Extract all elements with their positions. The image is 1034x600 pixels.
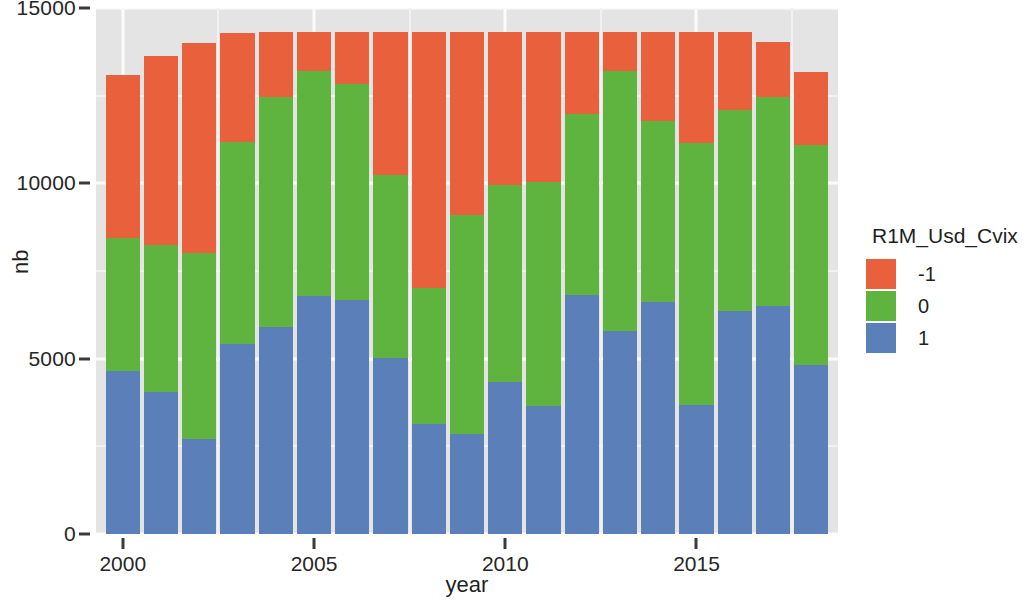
bar-stack — [144, 8, 178, 534]
x-axis-title: year — [96, 572, 838, 598]
bar-segment — [756, 306, 790, 534]
gridline-minor-vertical — [600, 8, 602, 534]
legend-color-swatch — [866, 259, 896, 289]
bar-segment — [182, 43, 216, 253]
bar-segment — [565, 32, 599, 114]
x-tick-mark — [504, 538, 507, 549]
bar-stack — [794, 8, 828, 534]
y-axis-title: nb — [8, 250, 34, 274]
bar-segment — [373, 175, 407, 357]
bar-segment — [718, 32, 752, 109]
bar-stack — [220, 8, 254, 534]
y-tick-label: 5000 — [28, 347, 76, 371]
bar-segment — [144, 392, 178, 534]
y-axis: 050001000015000 — [0, 0, 96, 600]
bar-stack — [603, 8, 637, 534]
bar-segment — [144, 245, 178, 392]
bar-segment — [182, 253, 216, 440]
bar-segment — [450, 32, 484, 214]
bar-segment — [679, 32, 713, 143]
bar-segment — [794, 145, 828, 365]
legend-item: 1 — [866, 322, 1034, 354]
bar-segment — [220, 33, 254, 142]
bar-segment — [756, 42, 790, 97]
bar-segment — [412, 32, 446, 288]
legend: R1M_Usd_Cvix -101 — [866, 224, 1034, 354]
x-tick-mark — [313, 538, 316, 549]
bar-segment — [603, 71, 637, 330]
bar-segment — [297, 71, 331, 296]
bar-stack — [488, 8, 522, 534]
legend-item-label: -1 — [918, 263, 936, 286]
bar-stack — [412, 8, 446, 534]
bar-segment — [335, 300, 369, 534]
bar-segment — [106, 371, 140, 534]
y-tick-label: 15000 — [17, 0, 76, 20]
bar-stack — [259, 8, 293, 534]
bar-stack — [526, 8, 560, 534]
bar-segment — [794, 72, 828, 145]
bar-segment — [488, 382, 522, 534]
bar-segment — [603, 331, 637, 534]
bar-segment — [106, 75, 140, 237]
legend-item-label: 1 — [918, 327, 929, 350]
bar-segment — [488, 32, 522, 185]
bar-segment — [335, 32, 369, 84]
bar-segment — [335, 84, 369, 299]
plot-panel — [96, 8, 838, 534]
bar-segment — [603, 32, 637, 71]
bar-segment — [412, 288, 446, 424]
bar-segment — [144, 56, 178, 244]
bar-segment — [756, 97, 790, 306]
bar-stack — [718, 8, 752, 534]
bar-segment — [259, 32, 293, 97]
bar-segment — [794, 365, 828, 534]
y-tick-label: 10000 — [17, 171, 76, 195]
bar-segment — [718, 311, 752, 534]
x-tick-mark — [695, 538, 698, 549]
bar-segment — [679, 143, 713, 405]
bar-segment — [488, 185, 522, 381]
y-tick-mark — [79, 357, 90, 360]
bar-segment — [106, 238, 140, 371]
gridline-minor-vertical — [409, 8, 411, 534]
bar-stack — [297, 8, 331, 534]
bar-stack — [182, 8, 216, 534]
bar-stack — [756, 8, 790, 534]
bar-segment — [259, 327, 293, 534]
legend-title: R1M_Usd_Cvix — [872, 224, 1034, 248]
bar-segment — [718, 110, 752, 312]
bar-stack — [641, 8, 675, 534]
bar-segment — [182, 439, 216, 534]
bar-segment — [373, 358, 407, 534]
bar-segment — [526, 406, 560, 534]
gridline-minor-vertical — [791, 8, 793, 534]
legend-item: 0 — [866, 290, 1034, 322]
bar-segment — [373, 32, 407, 175]
y-tick-mark — [79, 7, 90, 10]
bar-segment — [412, 424, 446, 534]
bar-segment — [220, 344, 254, 534]
bar-segment — [679, 405, 713, 534]
bar-segment — [526, 182, 560, 406]
legend-item-label: 0 — [918, 295, 929, 318]
x-tick-mark — [121, 538, 124, 549]
bar-stack — [565, 8, 599, 534]
bar-segment — [641, 302, 675, 534]
y-tick-mark — [79, 182, 90, 185]
bar-segment — [220, 142, 254, 344]
bar-stack — [679, 8, 713, 534]
y-tick-mark — [79, 533, 90, 536]
bar-segment — [450, 434, 484, 534]
bar-segment — [565, 295, 599, 534]
stacked-bar-chart: 050001000015000 nb 2000200520102015 year… — [0, 0, 1034, 600]
y-tick-label: 0 — [64, 522, 76, 546]
legend-item: -1 — [866, 258, 1034, 290]
bar-segment — [297, 32, 331, 71]
bar-segment — [565, 114, 599, 295]
bar-stack — [373, 8, 407, 534]
bar-stack — [450, 8, 484, 534]
legend-color-swatch — [866, 323, 896, 353]
bar-segment — [526, 32, 560, 182]
bar-stack — [335, 8, 369, 534]
